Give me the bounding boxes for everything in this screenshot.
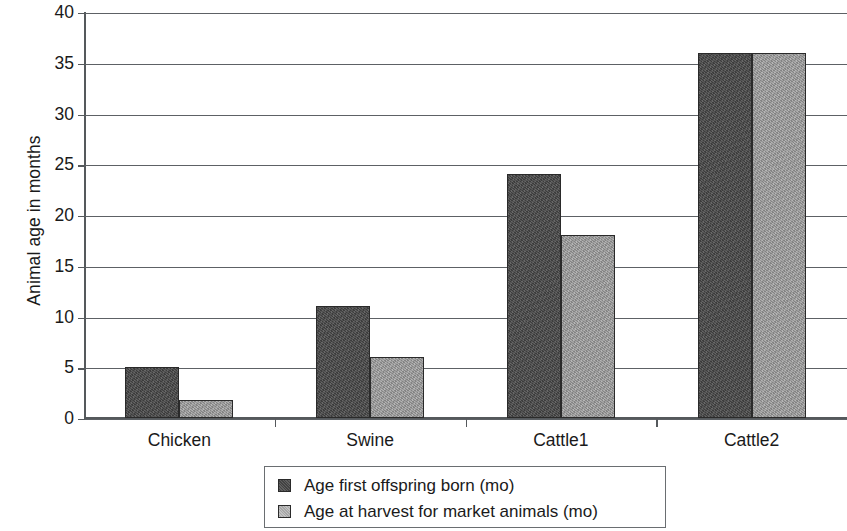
y-axis-tick-label: 10 xyxy=(34,309,74,327)
y-axis-tick-labels: 4035302520151050 xyxy=(28,0,74,440)
bar xyxy=(561,235,615,418)
bar xyxy=(179,400,233,418)
legend-label: Age at harvest for market animals (mo) xyxy=(304,503,598,520)
bar xyxy=(125,367,179,418)
y-axis-tick-mark xyxy=(78,13,85,14)
legend-item: Age first offspring born (mo) xyxy=(278,472,665,498)
x-axis-category-label: Swine xyxy=(275,432,466,450)
legend-swatch-icon xyxy=(278,479,291,492)
y-axis-tick-label: 15 xyxy=(34,258,74,276)
y-axis-tick-label: 25 xyxy=(34,156,74,174)
y-axis-tick-mark xyxy=(78,419,85,420)
bar xyxy=(316,306,370,418)
y-axis-tick-label: 35 xyxy=(34,55,74,73)
x-axis-tick-mark xyxy=(656,418,657,427)
bar xyxy=(370,357,424,418)
plot-area xyxy=(84,13,847,419)
bar xyxy=(507,174,561,418)
x-axis-category-label: Cattle1 xyxy=(466,432,657,450)
y-axis-tick-label: 0 xyxy=(34,410,74,428)
x-axis-tick-mark xyxy=(466,418,467,427)
x-axis-category-label: Chicken xyxy=(84,432,275,450)
y-axis-tick-label: 20 xyxy=(34,207,74,225)
y-axis-tick-mark xyxy=(78,318,85,319)
y-axis-tick-label: 5 xyxy=(34,359,74,377)
bar-chart: Animal age in months 4035302520151050 Ch… xyxy=(0,0,847,531)
legend-label: Age first offspring born (mo) xyxy=(304,477,514,494)
bar xyxy=(752,53,806,418)
gridline xyxy=(84,13,847,14)
x-axis-category-labels: ChickenSwineCattle1Cattle2 xyxy=(84,432,847,462)
y-axis-tick-label: 30 xyxy=(34,106,74,124)
y-axis-tick-mark xyxy=(78,368,85,369)
legend-item: Age at harvest for market animals (mo) xyxy=(278,498,665,524)
bar xyxy=(698,53,752,418)
chart-legend: Age first offspring born (mo)Age at harv… xyxy=(264,466,666,528)
y-axis-tick-mark xyxy=(78,267,85,268)
y-axis-tick-mark xyxy=(78,115,85,116)
y-axis-tick-label: 40 xyxy=(34,4,74,22)
y-axis-tick-mark xyxy=(78,216,85,217)
legend-swatch-icon xyxy=(278,505,291,518)
y-axis-tick-mark xyxy=(78,165,85,166)
y-axis-tick-mark xyxy=(78,64,85,65)
x-axis-tick-mark xyxy=(275,418,276,427)
x-axis-category-label: Cattle2 xyxy=(656,432,847,450)
